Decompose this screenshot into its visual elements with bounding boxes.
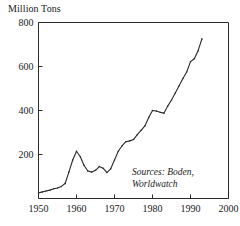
svg-text:1980: 1980 bbox=[143, 203, 163, 214]
svg-text:200: 200 bbox=[19, 149, 34, 160]
svg-text:2000: 2000 bbox=[219, 203, 239, 214]
svg-text:800: 800 bbox=[19, 17, 34, 28]
svg-text:1990: 1990 bbox=[181, 203, 201, 214]
line-chart-plot: 200400600800195019601970198019902000 bbox=[0, 0, 240, 226]
svg-text:600: 600 bbox=[19, 61, 34, 72]
svg-text:1960: 1960 bbox=[67, 203, 87, 214]
svg-text:1970: 1970 bbox=[105, 203, 125, 214]
chart-container: Million Tons 200400600800195019601970198… bbox=[0, 0, 240, 226]
source-annotation: Sources: Boden, Worldwatch bbox=[132, 166, 228, 190]
svg-text:1950: 1950 bbox=[29, 203, 49, 214]
svg-text:400: 400 bbox=[19, 105, 34, 116]
